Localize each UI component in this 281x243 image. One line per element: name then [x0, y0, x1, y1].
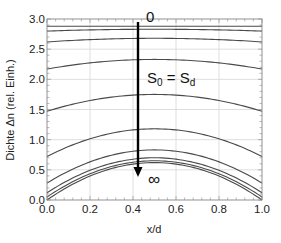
data-curve	[47, 38, 262, 42]
x-tick-label: 0.2	[82, 203, 98, 215]
y-tick-label: 2.0	[29, 73, 45, 85]
data-curve	[47, 129, 262, 157]
y-tick-label: 0.5	[29, 164, 45, 176]
x-tick-label: 0.8	[211, 203, 227, 215]
arrow-head-icon	[134, 167, 143, 177]
x-tick-label: 0.4	[125, 203, 142, 215]
direction-arrow	[134, 22, 143, 177]
y-tick-label: 1.0	[29, 134, 45, 146]
data-curve	[47, 94, 262, 111]
y-tick-label: 3.0	[29, 13, 45, 25]
data-curve	[47, 29, 262, 31]
y-tick-label: 0.0	[29, 194, 45, 206]
data-curve	[47, 59, 262, 69]
arrow-start-label: 0	[146, 8, 154, 25]
x-tick-label: 0.6	[168, 203, 184, 215]
y-tick-labels: 0.00.51.01.52.02.53.0	[29, 13, 45, 206]
x-tick-labels: 0.00.20.40.60.81.0	[39, 203, 270, 215]
x-axis-label: x/d	[147, 223, 162, 235]
x-tick-label: 1.0	[254, 203, 270, 215]
y-axis-label: Dichte Δn (rel. Einh.)	[4, 59, 16, 161]
chart: 0.00.20.40.60.81.0 0.00.51.01.52.02.53.0…	[0, 0, 281, 243]
arrow-end-label: ∞	[148, 170, 160, 189]
condition-label: S0 = Sd	[147, 69, 195, 88]
y-tick-label: 2.5	[29, 43, 45, 55]
y-tick-label: 1.5	[29, 104, 45, 116]
